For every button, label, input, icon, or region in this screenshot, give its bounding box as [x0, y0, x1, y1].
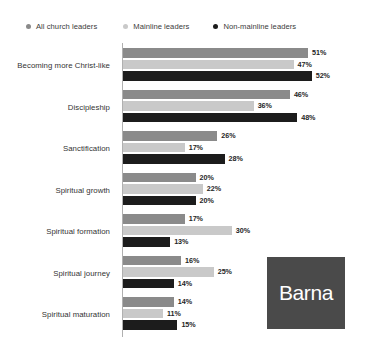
legend-item[interactable]: Mainline leaders	[123, 22, 189, 31]
bar-value-label: 28%	[229, 154, 243, 163]
bar-value-label: 17%	[189, 214, 203, 223]
bar-value-label: 52%	[316, 71, 330, 80]
category-label: Spiritual growth	[0, 172, 116, 209]
bar-value-label: 47%	[298, 60, 312, 69]
bar-row[interactable]: 36%	[123, 101, 368, 111]
bar-group: 26%17%28%	[123, 131, 368, 167]
bar[interactable]	[123, 279, 174, 289]
bar-row[interactable]: 17%	[123, 143, 368, 153]
bar-value-label: 30%	[236, 226, 250, 235]
bar-row[interactable]: 51%	[123, 48, 368, 58]
bar-value-label: 14%	[178, 279, 192, 288]
legend-item-label: Mainline leaders	[133, 22, 189, 31]
bar-row[interactable]: 17%	[123, 214, 368, 224]
chart-container: All church leadersMainline leadersNon-ma…	[0, 0, 368, 352]
bar[interactable]	[123, 154, 225, 164]
bar[interactable]	[123, 173, 196, 183]
legend-item[interactable]: All church leaders	[26, 22, 97, 31]
category-label: Discipleship	[0, 89, 116, 126]
legend-item-label: All church leaders	[36, 22, 97, 31]
bar[interactable]	[123, 237, 170, 247]
category-label: Spiritual journey	[0, 255, 116, 292]
bar[interactable]	[123, 131, 217, 141]
category-label: Sanctification	[0, 130, 116, 167]
bar-value-label: 20%	[200, 196, 214, 205]
bar-value-label: 15%	[181, 320, 195, 329]
bar-row[interactable]: 52%	[123, 71, 368, 81]
chart-group: Becoming more Christ-like51%47%52%	[0, 47, 368, 84]
bar[interactable]	[123, 256, 181, 266]
bar-row[interactable]: 30%	[123, 226, 368, 236]
bar-value-label: 51%	[312, 48, 326, 57]
category-label: Spiritual maturation	[0, 296, 116, 333]
bar[interactable]	[123, 309, 163, 319]
chart-legend: All church leadersMainline leadersNon-ma…	[22, 18, 352, 34]
bar[interactable]	[123, 60, 294, 70]
bar[interactable]	[123, 320, 177, 330]
bar[interactable]	[123, 226, 232, 236]
bar[interactable]	[123, 113, 297, 123]
bar-row[interactable]: 20%	[123, 196, 368, 206]
bar-row[interactable]: 13%	[123, 237, 368, 247]
bar-value-label: 20%	[200, 173, 214, 182]
bar-value-label: 36%	[258, 101, 272, 110]
bar[interactable]	[123, 196, 196, 206]
bar-value-label: 17%	[189, 143, 203, 152]
bar-row[interactable]: 20%	[123, 173, 368, 183]
category-label: Spiritual formation	[0, 213, 116, 250]
bar-value-label: 11%	[167, 309, 181, 318]
bar-row[interactable]: 46%	[123, 90, 368, 100]
bar-value-label: 26%	[221, 131, 235, 140]
bar[interactable]	[123, 90, 290, 100]
bar-value-label: 13%	[174, 237, 188, 246]
bar-value-label: 14%	[178, 297, 192, 306]
legend-dot-icon	[26, 24, 31, 29]
bar-value-label: 48%	[301, 113, 315, 122]
bar-value-label: 16%	[185, 256, 199, 265]
bar-row[interactable]: 48%	[123, 113, 368, 123]
bar[interactable]	[123, 48, 308, 58]
legend-item[interactable]: Non-mainline leaders	[213, 22, 296, 31]
legend-item-label: Non-mainline leaders	[223, 22, 296, 31]
bar-value-label: 46%	[294, 90, 308, 99]
barna-logo: Barna	[267, 257, 345, 329]
bar-row[interactable]: 26%	[123, 131, 368, 141]
bar-row[interactable]: 22%	[123, 184, 368, 194]
bar-value-label: 22%	[207, 184, 221, 193]
legend-dot-icon	[123, 24, 128, 29]
bar[interactable]	[123, 267, 214, 277]
bar[interactable]	[123, 297, 174, 307]
bar-row[interactable]: 28%	[123, 154, 368, 164]
chart-group: Spiritual formation17%30%13%	[0, 213, 368, 250]
bar[interactable]	[123, 214, 185, 224]
barna-logo-text: Barna	[279, 281, 333, 305]
chart-group: Sanctification26%17%28%	[0, 130, 368, 167]
bar[interactable]	[123, 184, 203, 194]
bar-group: 51%47%52%	[123, 48, 368, 84]
bar[interactable]	[123, 143, 185, 153]
bar-group: 17%30%13%	[123, 214, 368, 250]
chart-group: Spiritual growth20%22%20%	[0, 172, 368, 209]
bar[interactable]	[123, 101, 254, 111]
bar-group: 46%36%48%	[123, 90, 368, 126]
category-label: Becoming more Christ-like	[0, 47, 116, 84]
chart-group: Discipleship46%36%48%	[0, 89, 368, 126]
bar[interactable]	[123, 71, 312, 81]
bar-row[interactable]: 47%	[123, 60, 368, 70]
bar-value-label: 25%	[218, 267, 232, 276]
bar-group: 20%22%20%	[123, 173, 368, 209]
legend-dot-icon	[213, 24, 218, 29]
